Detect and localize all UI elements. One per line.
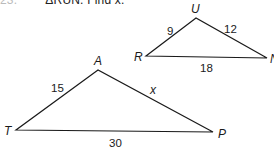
side-label-ru: 9 (167, 25, 173, 37)
vertex-label-r: R (134, 50, 143, 64)
vertex-label-a: A (93, 54, 102, 68)
side-label-ta: 15 (51, 82, 64, 94)
problem-number: 23. (0, 0, 17, 7)
vertex-label-t: T (4, 124, 13, 138)
side-label-tp: 30 (109, 137, 122, 149)
vertex-label-u: U (191, 2, 200, 16)
side-label-ap: x (149, 83, 157, 97)
side-label-rn: 18 (200, 62, 213, 74)
problem-statement: 23.ΔRUN. Find x. (0, 0, 125, 7)
triangles-diagram: U R N 9 12 18 A T P 15 x 30 (0, 0, 274, 151)
triangle-tap (16, 70, 213, 132)
triangle-run (146, 18, 267, 58)
vertex-label-p: P (218, 127, 226, 141)
problem-text: ΔRUN. Find x. (45, 0, 124, 7)
vertex-label-n: N (270, 52, 274, 66)
side-label-un: 12 (224, 23, 237, 35)
geometry-figure: 23.ΔRUN. Find x. U R N 9 12 18 A T P 15 … (0, 0, 274, 151)
